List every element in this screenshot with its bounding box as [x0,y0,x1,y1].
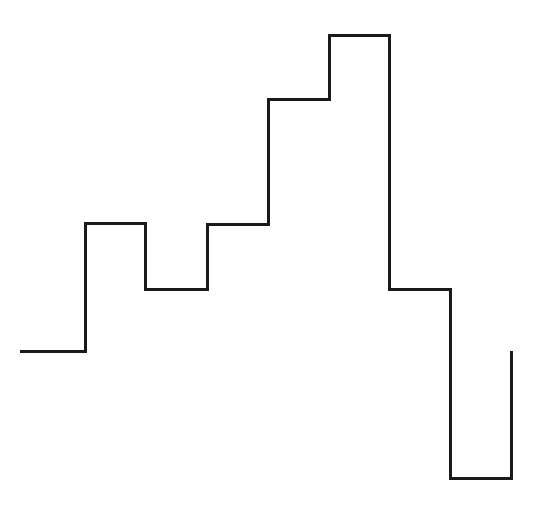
step-chart-figure [0,0,539,507]
chart-background [0,0,539,507]
step-chart-canvas [0,0,539,507]
